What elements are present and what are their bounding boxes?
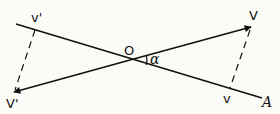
projection-v-prime-to-V-prime [15, 30, 35, 90]
label-axis-A: A [260, 94, 272, 110]
diagram-canvas: v' V' O α V v A [0, 0, 280, 114]
label-V-prime-lower: V' [6, 96, 18, 111]
label-origin-O: O [124, 43, 134, 58]
axis-line-OA [16, 24, 262, 98]
label-v-lower: v [223, 91, 231, 106]
angle-arc-alpha [146, 56, 147, 65]
projection-V-to-v [230, 30, 250, 88]
label-v-prime-upper: v' [31, 10, 42, 25]
vector-OV-prime [14, 60, 130, 92]
vector-OV [130, 27, 251, 60]
label-angle-alpha: α [150, 51, 160, 67]
label-V-upper: V [249, 8, 258, 23]
